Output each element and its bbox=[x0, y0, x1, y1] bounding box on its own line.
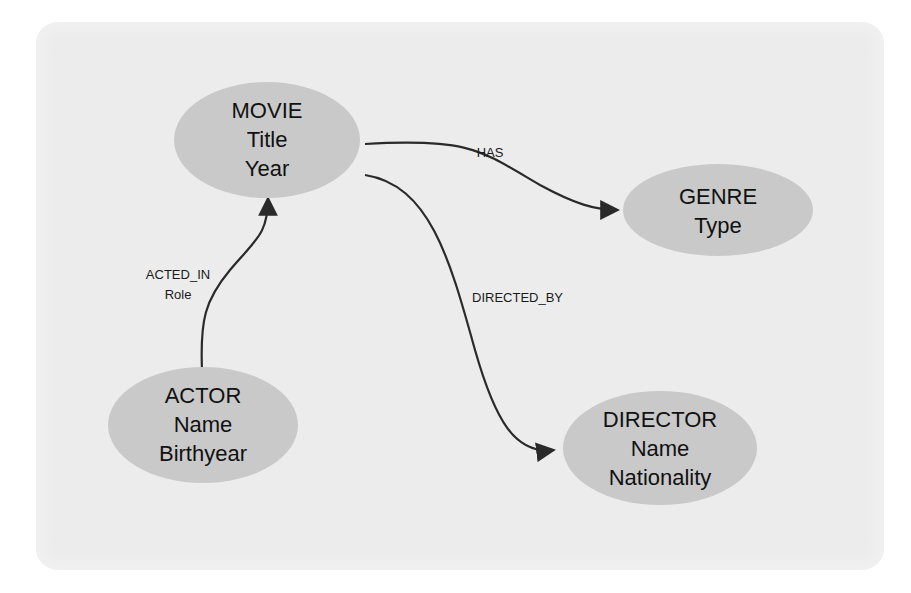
node-movie[interactable]: MOVIE Title Year bbox=[174, 82, 360, 198]
node-actor-attr-name: Name bbox=[174, 412, 233, 437]
node-director[interactable]: DIRECTOR Name Nationality bbox=[563, 391, 757, 505]
edge-directed-by: DIRECTED_BY bbox=[365, 175, 563, 450]
node-genre[interactable]: GENRE Type bbox=[623, 164, 813, 256]
node-genre-title: GENRE bbox=[679, 184, 757, 209]
node-actor-attr-birthyear: Birthyear bbox=[159, 441, 247, 466]
node-director-title: DIRECTOR bbox=[603, 407, 718, 432]
node-director-attr-name: Name bbox=[631, 436, 690, 461]
edge-acted-in: ACTED_IN Role bbox=[146, 198, 268, 370]
edge-acted-in-line bbox=[202, 198, 268, 370]
node-actor[interactable]: ACTOR Name Birthyear bbox=[108, 367, 298, 483]
node-movie-attr-title: Title bbox=[247, 127, 288, 152]
node-movie-attr-year: Year bbox=[245, 156, 289, 181]
edge-has-label: HAS bbox=[477, 145, 504, 160]
node-movie-title: MOVIE bbox=[232, 98, 303, 123]
edge-directed-by-line bbox=[365, 175, 554, 450]
edge-acted-in-label: ACTED_IN bbox=[146, 267, 210, 282]
edge-acted-in-property: Role bbox=[165, 287, 192, 302]
node-actor-title: ACTOR bbox=[165, 383, 242, 408]
graph-canvas: HAS DIRECTED_BY ACTED_IN Role MOVIE Titl… bbox=[0, 0, 911, 593]
node-director-attr-nationality: Nationality bbox=[609, 465, 712, 490]
node-genre-attr-type: Type bbox=[694, 213, 742, 238]
edge-directed-by-label: DIRECTED_BY bbox=[472, 290, 563, 305]
node-genre-shape bbox=[623, 164, 813, 256]
edge-has: HAS bbox=[365, 143, 618, 210]
